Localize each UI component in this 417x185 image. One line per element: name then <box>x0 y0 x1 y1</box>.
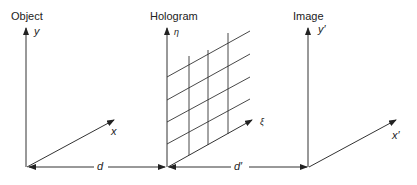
hologram-xi-label: ξ <box>260 118 264 127</box>
hologram-grid <box>167 31 250 155</box>
distance-d-prime-label: d′ <box>231 161 245 172</box>
image-title: Image <box>293 11 324 22</box>
object-title: Object <box>11 11 43 22</box>
hologram-title: Hologram <box>150 11 198 22</box>
object-x-label: x <box>111 126 117 137</box>
hologram-plane-axes <box>167 28 252 167</box>
hologram-eta-label: η <box>174 28 179 37</box>
image-y-prime-label: y′ <box>318 24 326 35</box>
object-y-label: y <box>34 26 40 37</box>
object-plane-axes <box>26 28 114 167</box>
image-plane-axes <box>308 28 396 167</box>
image-x-prime-axis <box>309 120 396 167</box>
distance-d-label: d <box>94 161 106 172</box>
hologram-geometry-diagram: Object y x d Hologram η ξ d′ Image y′ x′ <box>0 0 417 185</box>
diagram-lines <box>0 0 417 185</box>
image-x-prime-label: x′ <box>392 130 400 141</box>
